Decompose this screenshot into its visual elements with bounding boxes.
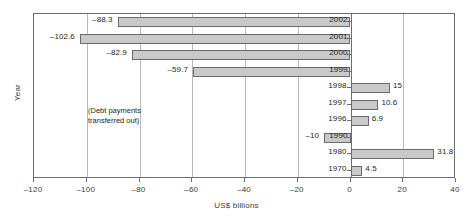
x-axis-tick-label: –40 (224, 185, 264, 194)
annotation-line-1: (Debt payments (88, 106, 141, 116)
x-axis-tick (191, 178, 192, 182)
x-axis-tick-label: –60 (171, 185, 211, 194)
category-tick (347, 87, 351, 88)
bar-value-label: –59.7 (168, 65, 189, 74)
bar-row: 151998 (34, 80, 454, 97)
bar-row: –59.71999 (34, 64, 454, 81)
bar-row: –82.92000 (34, 47, 454, 64)
plot-inner: –88.32002–102.62001–82.92000–59.71999151… (34, 14, 454, 177)
bar-value-label: 15 (393, 81, 402, 90)
chart-annotation: (Debt paymentstransferred out) (88, 106, 141, 126)
category-label: 1980 (324, 147, 347, 156)
bar-value-label: –82.9 (106, 48, 127, 57)
x-axis-tick-label: 0 (330, 185, 370, 194)
category-tick (347, 170, 351, 171)
category-tick (347, 120, 351, 121)
bar-value-label: –10 (305, 131, 319, 140)
bar (351, 149, 435, 159)
category-label: 1990 (325, 131, 348, 140)
x-axis-tick-label: –80 (119, 185, 159, 194)
bar-row: 31.81980 (34, 146, 454, 163)
bar (351, 116, 369, 126)
x-axis-tick (33, 178, 34, 182)
x-axis-tick (350, 178, 351, 182)
category-label: 2000 (325, 48, 348, 57)
x-axis-tick (455, 178, 456, 182)
x-axis-tick-label: –100 (66, 185, 106, 194)
x-axis-tick-label: 20 (382, 185, 422, 194)
category-label: 1996 (324, 114, 347, 123)
bar (118, 17, 351, 27)
category-tick (347, 104, 351, 105)
category-label: 1970 (324, 164, 347, 173)
category-label: 1997 (324, 98, 347, 107)
x-axis-tick-label: –20 (277, 185, 317, 194)
bar-row: 4.51970 (34, 163, 454, 180)
bar-value-label: –88.3 (92, 15, 113, 24)
category-label: 2002 (325, 15, 348, 24)
bar-chart: Year –88.32002–102.62001–82.92000–59.719… (0, 0, 473, 223)
category-label: 1998 (324, 81, 347, 90)
x-axis-tick (402, 178, 403, 182)
bar-value-label: 10.6 (381, 98, 397, 107)
y-axis-title: Year (13, 63, 22, 123)
category-label: 1999 (325, 65, 348, 74)
bar (351, 83, 391, 93)
bar (351, 100, 379, 110)
bar-row: –101990 (34, 130, 454, 147)
x-axis-tick (139, 178, 140, 182)
plot-area: –88.32002–102.62001–82.92000–59.71999151… (33, 13, 455, 178)
category-label: 2001 (325, 32, 348, 41)
x-axis-tick (86, 178, 87, 182)
bar-row: –102.62001 (34, 31, 454, 48)
bar-value-label: 31.8 (437, 147, 453, 156)
category-tick (347, 153, 351, 154)
x-axis-tick (297, 178, 298, 182)
bar-value-label: 4.5 (365, 164, 376, 173)
x-axis-tick-label: –120 (13, 185, 53, 194)
bar-value-label: 6.9 (372, 114, 383, 123)
annotation-line-2: transferred out) (88, 116, 141, 126)
bar (132, 50, 351, 60)
bar (80, 34, 351, 44)
bar (351, 166, 363, 176)
x-axis-title: US$ billions (0, 201, 473, 210)
x-axis-tick-label: 40 (435, 185, 473, 194)
bar-row: –88.32002 (34, 14, 454, 31)
bar-value-label: –102.6 (50, 32, 75, 41)
x-axis-tick (244, 178, 245, 182)
